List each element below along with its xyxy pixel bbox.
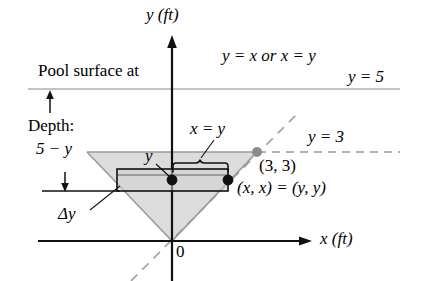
diagonal-line-label-text: y = x or x = y xyxy=(222,46,316,65)
slab-thickness-label-text: Δy xyxy=(58,204,76,223)
slab-thickness-label: Δy xyxy=(58,205,76,222)
point-3-3-label: (3, 3) xyxy=(259,157,296,174)
point-3-3-label-text: (3, 3) xyxy=(259,156,296,175)
pool-surface-label: Pool surface at xyxy=(38,62,139,79)
point-x-x-dot xyxy=(223,175,234,186)
brace-label: x = y xyxy=(190,120,225,137)
y-equals-3-label: y = 3 xyxy=(308,128,344,145)
point-center-dot xyxy=(167,175,178,186)
pool-surface-label-text: Pool surface at xyxy=(38,61,139,80)
y-equals-5-label: y = 5 xyxy=(348,68,384,85)
delta-y-leader-line xyxy=(90,186,120,210)
y-axis-label-text: y (ft) xyxy=(146,5,179,24)
half-width-label-text: y xyxy=(145,146,153,165)
figure-canvas: y (ft) x (ft) 0 Pool surface at y = x or… xyxy=(0,0,424,281)
y-equals-5-label-text: y = 5 xyxy=(348,67,384,86)
depth-value-label: 5 − y xyxy=(36,140,72,157)
y-axis-label: y (ft) xyxy=(146,6,179,23)
point-xx-yy-label-text: (x, x) = (y, y) xyxy=(237,178,326,197)
depth-word-label: Depth: xyxy=(28,117,74,134)
origin-label: 0 xyxy=(176,243,185,260)
y-equals-3-label-text: y = 3 xyxy=(308,127,344,146)
x-axis-label: x (ft) xyxy=(320,230,353,247)
x-axis-arrowhead xyxy=(299,236,312,245)
diagonal-line-label: y = x or x = y xyxy=(222,47,316,64)
depth-up-arrowhead xyxy=(46,90,54,99)
brace-label-text: x = y xyxy=(190,119,225,138)
origin-label-text: 0 xyxy=(176,242,185,261)
x-axis-label-text: x (ft) xyxy=(320,229,353,248)
half-width-label: y xyxy=(145,147,153,164)
y-axis-arrowhead xyxy=(167,35,177,48)
depth-value-label-text: 5 − y xyxy=(36,139,72,158)
point-xx-yy-label: (x, x) = (y, y) xyxy=(237,179,326,196)
depth-word-label-text: Depth: xyxy=(28,116,74,135)
